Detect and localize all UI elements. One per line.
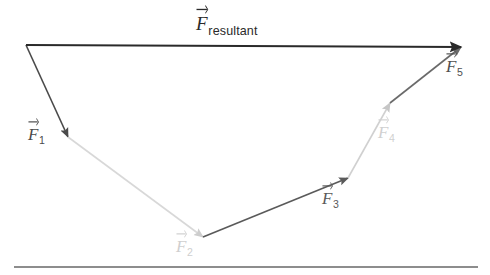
vector-symbol-f5: F: [446, 58, 456, 75]
vector-arrow-overbar-icon: [176, 229, 187, 238]
vector-arrow-overbar-icon: [196, 4, 208, 14]
vector-label-f4: F 4: [378, 124, 395, 144]
vector-subscript-f1: 1: [39, 134, 45, 146]
vector-symbol-resultant: F: [196, 14, 208, 33]
vector-subscript-resultant: resultant: [208, 24, 257, 38]
vector-symbol-f4: F: [378, 124, 388, 141]
vector-symbol-text: F: [28, 125, 38, 144]
vector-symbol-text: F: [446, 57, 456, 76]
vector-arrow-overbar-icon: [378, 115, 389, 124]
vector-symbol-f1: F: [28, 126, 38, 143]
vector-label-f2: F 2: [176, 238, 193, 258]
baseline-rule: [14, 266, 478, 268]
vector-resultant-arrow: [26, 45, 461, 47]
vector-arrow-overbar-icon: [446, 49, 457, 58]
vector-label-f3: F 3: [322, 190, 339, 210]
vector-diagram: F resultant F 1 F 2 F 3: [0, 0, 490, 275]
vector-f2-arrow: [68, 137, 203, 237]
vector-arrow-overbar-icon: [322, 181, 333, 190]
vector-symbol-f3: F: [322, 190, 332, 207]
vector-arrow-overbar-icon: [28, 117, 39, 126]
vector-symbol-f2: F: [176, 238, 186, 255]
vector-label-f1: F 1: [28, 126, 45, 146]
vector-canvas: [0, 0, 490, 275]
vector-subscript-f2: 2: [187, 246, 193, 258]
vector-symbol-text: F: [322, 189, 332, 208]
vector-subscript-f5: 5: [457, 66, 463, 78]
vector-subscript-f4: 4: [389, 132, 395, 144]
vector-symbol-text: F: [196, 13, 208, 34]
vector-symbol-text: F: [176, 237, 186, 256]
vector-symbol-text: F: [378, 123, 388, 142]
vector-subscript-f3: 3: [333, 198, 339, 210]
vector-label-f5: F 5: [446, 58, 463, 78]
vector-label-resultant: F resultant: [196, 14, 258, 37]
